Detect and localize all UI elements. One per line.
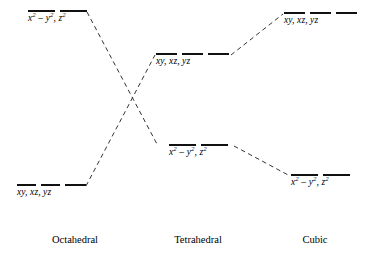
level-octahedral-upper: x2 – y2, z2 xyxy=(28,9,87,24)
orbital-bars xyxy=(156,52,229,55)
level-tetrahedral-lower: x2 – y2, z2 xyxy=(169,143,228,158)
orbital-bar xyxy=(65,184,86,186)
orbital-bars xyxy=(17,183,86,186)
connector-layer xyxy=(0,0,367,264)
orbital-bar xyxy=(310,12,331,14)
connector-tet-upper-to-cubic-upper xyxy=(231,14,283,55)
axis-label-octahedral: Octahedral xyxy=(20,234,130,245)
level-label-octahedral-upper: x2 – y2, z2 xyxy=(28,13,87,24)
orbital-bar xyxy=(156,53,177,55)
axis-label-tetrahedral: Tetrahedral xyxy=(143,234,253,245)
level-label-cubic-lower: x2 – y2, z2 xyxy=(291,177,350,188)
orbital-bar xyxy=(182,53,203,55)
level-cubic-upper: xy, xz, yz xyxy=(284,11,357,26)
level-cubic-lower: x2 – y2, z2 xyxy=(291,173,350,188)
orbital-bars xyxy=(284,11,357,14)
level-tetrahedral-upper: xy, xz, yz xyxy=(156,52,229,67)
connector-oct-upper-to-tet-lower xyxy=(87,12,158,146)
connector-tet-lower-to-cubic-lower xyxy=(234,146,290,176)
level-label-octahedral-lower: xy, xz, yz xyxy=(17,187,86,198)
axis-label-cubic: Cubic xyxy=(270,234,360,245)
level-octahedral-lower: xy, xz, yz xyxy=(17,183,86,198)
orbital-bars xyxy=(169,143,228,146)
crystal-field-splitting-diagram: x2 – y2, z2 xy, xz, yz xy, xz, yz xyxy=(0,0,367,264)
level-label-tetrahedral-lower: x2 – y2, z2 xyxy=(169,147,228,158)
orbital-bars xyxy=(28,9,87,12)
level-label-cubic-upper: xy, xz, yz xyxy=(284,15,357,26)
level-label-tetrahedral-upper: xy, xz, yz xyxy=(156,56,229,67)
orbital-bar xyxy=(17,184,36,186)
orbital-bar xyxy=(284,12,305,14)
orbital-bar xyxy=(41,184,60,186)
orbital-bar xyxy=(208,53,229,55)
orbital-bars xyxy=(291,173,350,176)
orbital-bar xyxy=(336,12,357,14)
